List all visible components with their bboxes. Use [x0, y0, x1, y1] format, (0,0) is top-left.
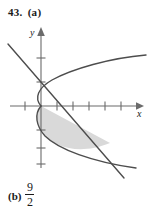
y-axis-label: y — [29, 27, 35, 38]
answer-fraction: 9 2 — [25, 181, 34, 208]
x-axis: x — [10, 102, 144, 120]
x-axis-label: x — [136, 108, 142, 119]
part-b-tag: (b) — [8, 190, 21, 202]
part-a-tag: (a) — [28, 6, 42, 18]
fraction-denominator: 2 — [26, 195, 34, 208]
shaded-region — [37, 106, 110, 149]
exercise-label-part-b: (b) 9 2 — [8, 182, 34, 209]
graph-figure: x y — [0, 22, 150, 180]
exercise-number: 43. — [8, 6, 23, 18]
fraction-numerator: 9 — [26, 181, 34, 194]
figure-panel: 43.(a) x — [0, 0, 150, 215]
straight-line — [8, 44, 124, 178]
exercise-label-part-a: 43.(a) — [8, 6, 41, 18]
parabola-upper-branch — [38, 55, 146, 106]
